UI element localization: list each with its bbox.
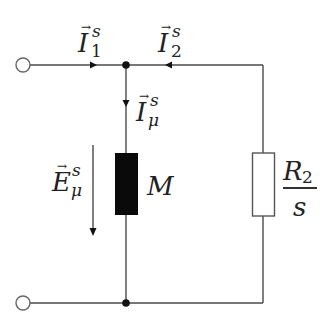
label-denominator-s: s (293, 194, 306, 220)
vector-arrow-icon: → (139, 90, 149, 102)
arrow-i2-icon (165, 62, 172, 69)
label-imu: → I s μ (136, 99, 146, 125)
label-m: M (147, 173, 174, 199)
fraction-bar (283, 187, 317, 189)
terminal-top (16, 58, 30, 72)
arrow-imu-icon (123, 100, 130, 107)
label-emu: → E s μ (52, 169, 71, 195)
rotor-resistor (253, 153, 275, 216)
arrow-emf-icon (90, 228, 97, 236)
vector-arrow-icon: → (161, 21, 171, 33)
main-inductance-block (115, 153, 138, 215)
terminal-bottom (16, 296, 30, 310)
label-i2: → I s 2 (158, 30, 168, 56)
label-r2-over-s: R 2 (283, 158, 303, 184)
vector-arrow-icon: → (81, 21, 91, 33)
label-i1: → I s 1 (78, 30, 88, 56)
vector-arrow-icon: → (57, 160, 67, 172)
arrow-i1-icon (90, 62, 97, 69)
node-bottom (122, 299, 130, 307)
node-top (122, 61, 130, 69)
